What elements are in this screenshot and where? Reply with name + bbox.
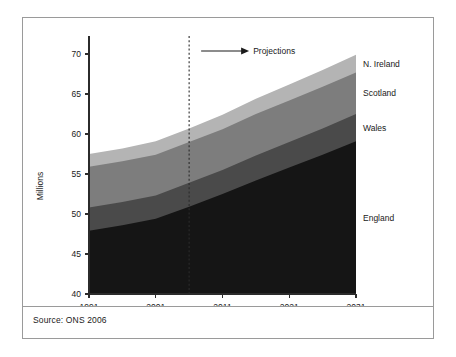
- figure-frame: 40455055606570 19912001201120212031 Engl…: [22, 17, 434, 339]
- x-axis-ticks: 19912001201120212031: [80, 294, 366, 306]
- y-tick-label: 65: [72, 89, 82, 99]
- chart-plot-area: 40455055606570 19912001201120212031 Engl…: [23, 18, 433, 306]
- y-tick-label: 50: [72, 209, 82, 219]
- y-tick-label: 70: [72, 49, 82, 59]
- series-labels-group: EnglandWalesScotlandN. Ireland: [363, 59, 400, 223]
- y-axis-title: Millions: [35, 172, 45, 200]
- series-label-wales: Wales: [363, 123, 386, 133]
- series-label-n-ireland: N. Ireland: [363, 59, 400, 69]
- y-tick-label: 45: [72, 249, 82, 259]
- y-tick-label: 55: [72, 169, 82, 179]
- area-series-group: [89, 55, 356, 294]
- series-label-scotland: Scotland: [363, 88, 396, 98]
- projection-arrowhead-icon: [241, 48, 249, 55]
- y-tick-label: 40: [72, 289, 82, 299]
- y-axis-ticks: 40455055606570: [72, 49, 89, 299]
- series-label-england: England: [363, 213, 394, 223]
- source-note: Source: ONS 2006: [33, 315, 107, 325]
- y-tick-label: 60: [72, 129, 82, 139]
- projections-label: Projections: [253, 46, 295, 56]
- source-divider: [23, 306, 433, 307]
- stacked-area-chart: 40455055606570 19912001201120212031 Engl…: [23, 18, 433, 306]
